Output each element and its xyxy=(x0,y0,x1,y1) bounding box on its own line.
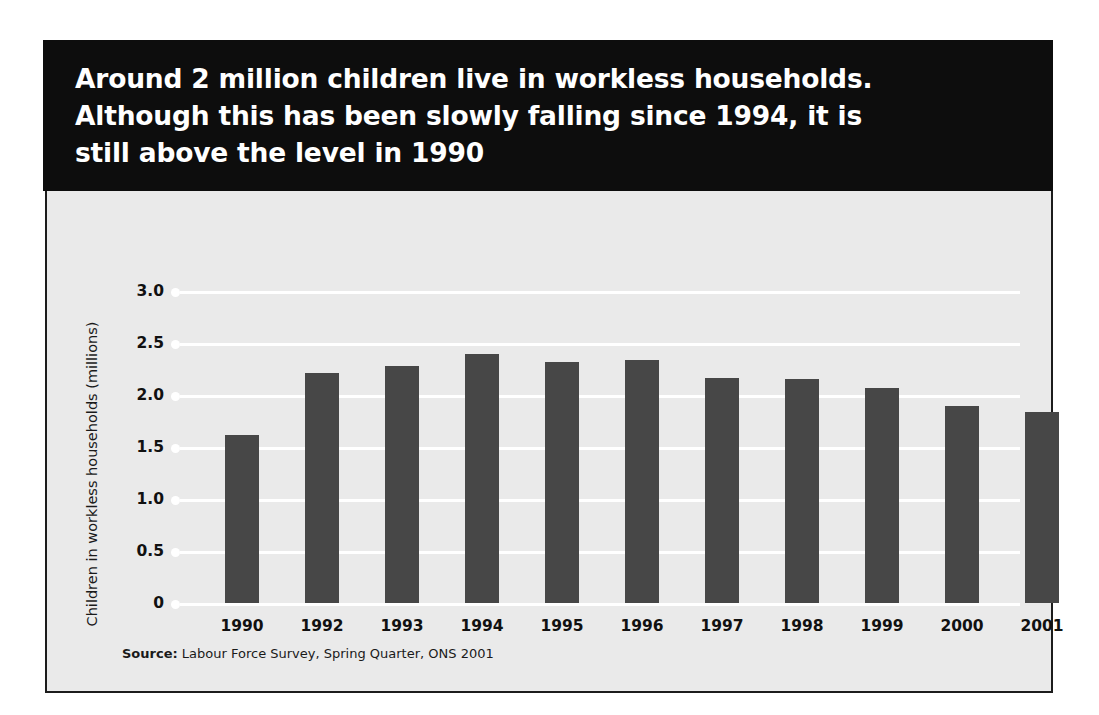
bar xyxy=(305,373,339,603)
source-note: Source: Labour Force Survey, Spring Quar… xyxy=(122,646,494,661)
chart-panel: Children in workless households (million… xyxy=(45,191,1053,693)
x-axis-tick-label: 2000 xyxy=(925,617,999,635)
y-axis-title: Children in workless households (million… xyxy=(84,279,100,669)
x-axis-tick-label: 1994 xyxy=(445,617,519,635)
title-banner: Around 2 million children live in workle… xyxy=(43,40,1053,191)
y-axis-tick-label: 0 xyxy=(153,594,164,612)
bar xyxy=(225,435,259,603)
x-axis-tick-label: 1995 xyxy=(525,617,599,635)
source-label: Source: xyxy=(122,646,178,661)
plot-area: 00.51.01.52.02.53.0 19901992199319941995… xyxy=(180,291,1020,603)
page-title: Around 2 million children live in workle… xyxy=(75,60,1027,171)
bar xyxy=(705,378,739,603)
y-axis-tick-label: 0.5 xyxy=(137,542,164,560)
gridline xyxy=(180,603,1020,606)
y-axis-tick-label: 3.0 xyxy=(137,282,164,300)
x-axis-tick-label: 2001 xyxy=(1005,617,1079,635)
bar xyxy=(465,354,499,603)
bar xyxy=(545,362,579,603)
y-axis-tick-dot xyxy=(171,340,180,349)
y-axis-tick-label: 2.5 xyxy=(137,334,164,352)
bar xyxy=(945,406,979,603)
x-axis-tick-label: 1993 xyxy=(365,617,439,635)
x-axis-tick-label: 1990 xyxy=(205,617,279,635)
y-axis-tick-label: 2.0 xyxy=(137,386,164,404)
x-axis-tick-label: 1992 xyxy=(285,617,359,635)
y-axis-tick-label: 1.0 xyxy=(137,490,164,508)
x-axis-tick-label: 1997 xyxy=(685,617,759,635)
bar xyxy=(785,379,819,603)
y-axis-tick-dot xyxy=(171,288,180,297)
source-text: Labour Force Survey, Spring Quarter, ONS… xyxy=(178,646,494,661)
bar xyxy=(385,366,419,603)
gridline xyxy=(180,343,1020,346)
y-axis-tick-dot xyxy=(171,392,180,401)
x-axis-tick-label: 1998 xyxy=(765,617,839,635)
gridline xyxy=(180,291,1020,294)
y-axis-tick-dot xyxy=(171,600,180,609)
x-axis-tick-label: 1999 xyxy=(845,617,919,635)
bar xyxy=(1025,412,1059,603)
x-axis-tick-label: 1996 xyxy=(605,617,679,635)
figure: Around 2 million children live in workle… xyxy=(43,40,1053,693)
bar xyxy=(865,388,899,603)
y-axis-tick-dot xyxy=(171,444,180,453)
y-axis-tick-dot xyxy=(171,548,180,557)
y-axis-tick-dot xyxy=(171,496,180,505)
y-axis-tick-label: 1.5 xyxy=(137,438,164,456)
bar xyxy=(625,360,659,603)
